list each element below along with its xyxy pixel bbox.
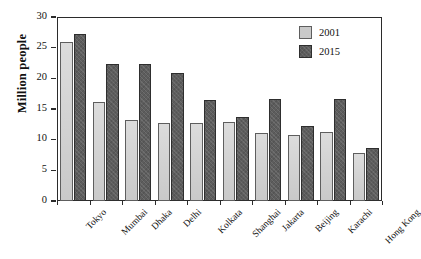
bar bbox=[366, 148, 379, 201]
bar bbox=[334, 99, 347, 201]
legend: 20012015 bbox=[299, 24, 375, 62]
y-axis-tick-mark bbox=[51, 78, 56, 79]
bar bbox=[190, 123, 203, 202]
y-axis-tick-label: 30 bbox=[0, 10, 47, 21]
x-axis-tick-mark bbox=[57, 201, 58, 205]
x-axis-tick-label: Jakarta bbox=[280, 207, 306, 233]
x-axis-tick-label: Kolkata bbox=[216, 207, 244, 235]
bar bbox=[171, 73, 184, 201]
x-axis-tick-mark bbox=[155, 201, 156, 205]
bar bbox=[255, 133, 268, 201]
bar bbox=[223, 122, 236, 201]
bar bbox=[106, 64, 119, 201]
x-axis-tick-mark bbox=[90, 201, 91, 205]
x-axis-tick-mark bbox=[122, 201, 123, 205]
bar bbox=[139, 64, 152, 201]
legend-label: 2001 bbox=[319, 27, 340, 38]
bar bbox=[269, 99, 282, 201]
y-axis-tick-label: 5 bbox=[0, 163, 47, 174]
legend-swatch bbox=[299, 26, 312, 39]
bar bbox=[301, 126, 314, 201]
y-axis-tick-label: 15 bbox=[0, 102, 47, 113]
bar bbox=[60, 42, 73, 201]
y-axis-tick-label: 25 bbox=[0, 40, 47, 51]
bar bbox=[93, 102, 106, 201]
legend-label: 2015 bbox=[319, 46, 340, 57]
x-axis-tick-mark bbox=[187, 201, 188, 205]
x-axis-tick-label: Karachi bbox=[346, 207, 374, 235]
y-axis-tick-label: 0 bbox=[0, 194, 47, 205]
bar bbox=[125, 120, 138, 201]
x-axis-tick-label: Hong Kong bbox=[383, 207, 421, 246]
y-axis-tick-mark bbox=[51, 47, 56, 48]
bar bbox=[320, 132, 333, 201]
x-axis-tick-label: Beijing bbox=[313, 207, 340, 234]
legend-item: 2001 bbox=[299, 24, 375, 40]
x-axis: TokyoMumbaiDhakaDelhiKolkataShanghaiJaka… bbox=[57, 201, 382, 259]
x-axis-tick-mark bbox=[285, 201, 286, 205]
x-axis-tick-label: Delhi bbox=[181, 207, 203, 229]
x-axis-tick-mark bbox=[350, 201, 351, 205]
x-axis-tick-mark bbox=[252, 201, 253, 205]
bar bbox=[353, 153, 366, 201]
y-axis-tick-label: 20 bbox=[0, 71, 47, 82]
y-axis-tick-mark bbox=[51, 170, 56, 171]
x-axis-tick-label: Mumbai bbox=[119, 207, 149, 237]
bar bbox=[236, 117, 249, 201]
bar bbox=[158, 123, 171, 201]
legend-swatch bbox=[299, 45, 312, 58]
bar bbox=[74, 34, 87, 201]
y-axis-tick-mark bbox=[51, 200, 56, 201]
bar bbox=[204, 100, 217, 201]
y-axis-tick-label: 10 bbox=[0, 132, 47, 143]
x-axis-tick-label: Shanghai bbox=[250, 207, 282, 239]
x-axis-tick-mark bbox=[220, 201, 221, 205]
y-axis-tick-mark bbox=[51, 108, 56, 109]
legend-item: 2015 bbox=[299, 43, 375, 59]
y-axis-tick-mark bbox=[51, 139, 56, 140]
x-axis-tick-mark bbox=[382, 201, 383, 205]
x-axis-tick-label: Tokyo bbox=[84, 207, 108, 231]
x-axis-tick-label: Dhaka bbox=[150, 207, 175, 232]
bar bbox=[288, 135, 301, 201]
y-axis-tick-mark bbox=[51, 16, 56, 17]
x-axis-tick-mark bbox=[317, 201, 318, 205]
